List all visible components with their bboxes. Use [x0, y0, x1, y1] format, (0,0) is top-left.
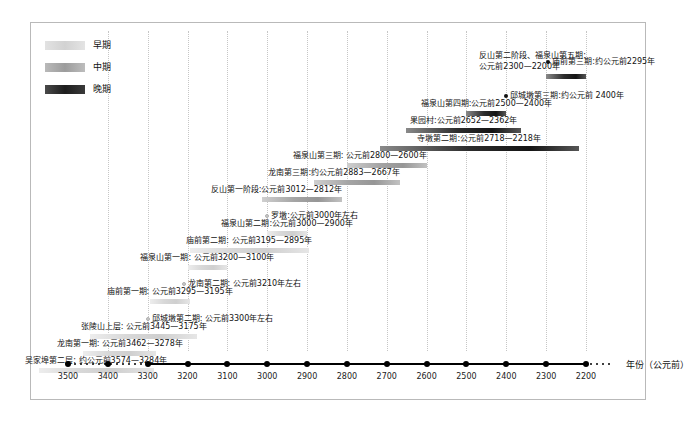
timeline-plot-area: 早期中期晚期 庙前第三期:约公元前2295年反山第二阶段、福泉山第五期:公元前2…: [31, 23, 645, 399]
axis-dot: [116, 363, 118, 365]
axis-tick-marker-3200: [185, 361, 191, 367]
chart-frame: 早期中期晚期 庙前第三期:约公元前2295年反山第二阶段、福泉山第五期:公元前2…: [30, 22, 646, 400]
axis-dot: [92, 363, 94, 365]
axis-tick-label-2400: 2400: [496, 372, 516, 381]
axis-dot: [86, 363, 88, 365]
axis-tick-marker-2200: [583, 361, 589, 367]
axis-tick-marker-3500: [65, 361, 71, 367]
entry-label: 龙南第一期: 公元前3462—3278年: [57, 340, 183, 348]
x-axis: 3500340033003200310030002900280027002600…: [31, 363, 645, 365]
axis-dot: [590, 363, 592, 365]
timeline-entry: 反山第二阶段、福泉山第五期:公元前2300—2200年: [31, 57, 645, 79]
axis-dot: [128, 363, 130, 365]
entry-label: 福泉山第一期: 公元前3200—3100年: [140, 254, 274, 262]
entry-label: 反山第二阶段、福泉山第五期:公元前2300—2200年: [479, 52, 586, 71]
timeline-entry: 吴家埠第二层: 约公元前3574—3284年: [31, 351, 645, 373]
entry-label: 庙前第一期: 公元前3295—3195年: [107, 288, 233, 296]
axis-dot: [140, 363, 142, 365]
entry-label: 果园村:公元前2652—2362年: [410, 117, 517, 125]
axis-dot: [74, 363, 76, 365]
axis-tick-label-2900: 2900: [297, 372, 317, 381]
axis-tick-label-3100: 3100: [217, 372, 237, 381]
entry-label: 福泉山第四期:公元前2500—2400年: [421, 100, 552, 108]
axis-tick-label-2700: 2700: [377, 372, 397, 381]
axis-tick-label-2600: 2600: [416, 372, 436, 381]
axis-dots-right: [590, 363, 620, 365]
axis-tick-marker-2600: [424, 361, 430, 367]
axis-tick-label-2800: 2800: [337, 372, 357, 381]
axis-tick-marker-3300: [145, 361, 151, 367]
entry-label-line2: 公元前2300—2200年: [479, 63, 586, 71]
axis-dot: [602, 363, 604, 365]
axis-tick-label-3000: 3000: [257, 372, 277, 381]
entry-label-line1: 反山第二阶段、福泉山第五期:: [479, 52, 586, 60]
entry-label: 庙前第二期: 公元前3195—2895年: [186, 237, 312, 245]
axis-tick-marker-2800: [344, 361, 350, 367]
axis-tick-label-3500: 3500: [58, 372, 78, 381]
axis-dot: [608, 363, 610, 365]
entry-label: 反山第一阶段:公元前3012—2812年: [211, 186, 342, 194]
entry-label: 龙南第三期:约公元前2883—2667年: [268, 169, 399, 177]
axis-tick-label-3200: 3200: [177, 372, 197, 381]
axis-dot: [134, 363, 136, 365]
axis-tick-marker-2700: [384, 361, 390, 367]
axis-dot: [98, 363, 100, 365]
axis-tick-label-3300: 3300: [138, 372, 158, 381]
entry-label: 寺墩第二期:公元前2718—2218年: [417, 135, 540, 143]
entry-label: 福泉山第三期: 公元前2800—2600年: [293, 152, 427, 160]
axis-tick-label-2500: 2500: [456, 372, 476, 381]
axis-dot: [596, 363, 598, 365]
axis-tick-label-2300: 2300: [536, 372, 556, 381]
axis-title-label: 年份（公元前）: [626, 358, 688, 371]
axis-tick-label-2200: 2200: [576, 372, 596, 381]
entry-label: 福泉山第二期:公元前3000—2900年: [221, 220, 352, 228]
axis-tick-marker-3400: [105, 361, 111, 367]
axis-dot: [80, 363, 82, 365]
axis-line: [148, 363, 586, 365]
axis-tick-label-3400: 3400: [98, 372, 118, 381]
entry-label: 张陵山上层: 公元前3445—3175年: [81, 323, 207, 331]
axis-dot: [122, 363, 124, 365]
